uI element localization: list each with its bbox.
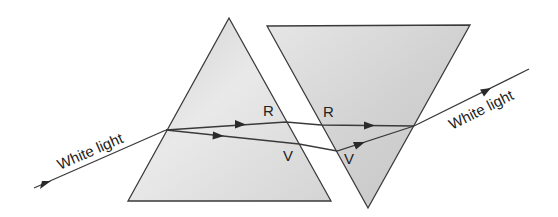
incident-arrow-icon	[40, 181, 51, 189]
red-label-first-prism: R	[263, 102, 274, 119]
prism-diagram: White light White light R R V V	[0, 0, 558, 217]
violet-label-first-prism: V	[283, 147, 293, 164]
violet-label-second-prism: V	[344, 150, 354, 167]
red-label-second-prism: R	[323, 103, 334, 120]
incident-label: White light	[54, 129, 126, 173]
